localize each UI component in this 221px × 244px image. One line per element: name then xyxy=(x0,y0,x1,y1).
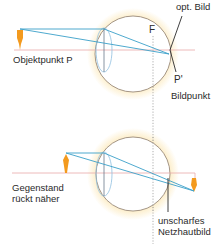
eye-accommodation-diagram: Objektpunkt P F opt. Bild P' Bildpunkt G… xyxy=(0,0,221,244)
object-moves-closer-label-line2: rückt näher xyxy=(12,193,60,204)
object-arrow-icon xyxy=(17,30,23,50)
object-moves-closer-label-line1: Gegenstand xyxy=(12,182,64,193)
eyeball xyxy=(96,137,170,211)
optical-image-label: opt. Bild xyxy=(176,1,210,12)
image-point-caption: Bildpunkt xyxy=(171,90,210,101)
blurry-retina-image-label-line1: unscharfes xyxy=(158,215,204,226)
bottom-diagram xyxy=(12,128,197,220)
image-point-label: P' xyxy=(174,74,183,85)
diagram-graphics xyxy=(0,0,221,244)
blurry-retina-image-label-line2: Netzhautbild xyxy=(158,226,211,237)
focal-point-label: F xyxy=(149,24,155,35)
eyeball xyxy=(95,16,171,92)
object-point-label: Objektpunkt P xyxy=(13,54,73,65)
object-arrow-icon xyxy=(63,154,69,173)
